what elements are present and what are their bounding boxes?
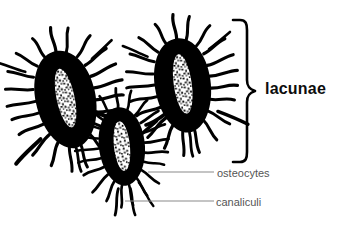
lacunae-brace [233,20,255,162]
diagram-canvas [0,0,345,231]
label-canaliculi: canaliculi [216,196,261,208]
label-osteocytes: osteocytes [217,167,270,179]
label-lacunae: lacunae [265,80,326,98]
osteocyte-lacunae-diagram: lacunae osteocytes canaliculi [0,0,345,231]
osteocyte-right [115,6,252,164]
